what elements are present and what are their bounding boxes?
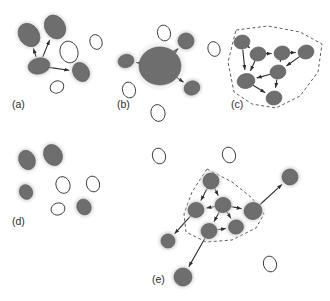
figure-canvas: (a)(b)(c)(d)(e) (0, 0, 330, 301)
node-filled[interactable] (139, 47, 181, 85)
panel-label-a: (a) (12, 98, 25, 110)
panel-label-d: (d) (12, 215, 25, 227)
edge-arrow (248, 47, 249, 48)
network-panels-svg: (a)(b)(c)(d)(e) (0, 0, 330, 301)
panel-label-e: (e) (152, 273, 165, 285)
panel-label-c: (c) (231, 98, 243, 110)
panel-label-b: (b) (117, 98, 130, 110)
